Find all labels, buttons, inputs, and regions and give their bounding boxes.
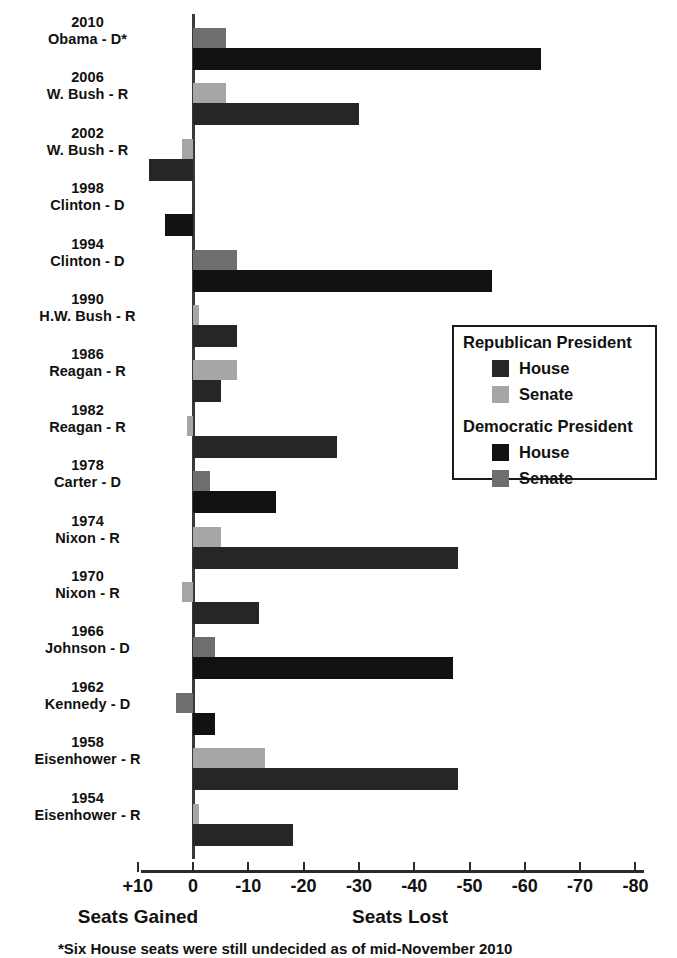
x-axis-label-right: Seats Lost [300,906,500,928]
row-president: Reagan - R [0,363,175,380]
x-tick-label--80: -80 [622,876,648,897]
x-tick-label--60: -60 [512,876,538,897]
row-label-1958: 1958Eisenhower - R [0,734,175,768]
x-tick-label--30: -30 [346,876,372,897]
bar-house-1982 [193,436,337,458]
row-year: 1966 [0,623,175,640]
x-tick--60 [524,862,526,872]
row-label-1978: 1978Carter - D [0,457,175,491]
legend-item-republican-senate: Senate [492,385,573,404]
bar-senate-2002 [182,139,193,159]
legend-item-republican-house: House [492,359,569,378]
bar-senate-1990 [193,305,199,325]
bar-house-2002 [149,159,193,181]
chart-footnote: *Six House seats were still undecided as… [58,940,512,957]
chart-root: 2010Obama - D*2006W. Bush - R2002W. Bush… [0,0,677,958]
x-tick-label--20: -20 [291,876,317,897]
row-president: Reagan - R [0,419,175,436]
row-label-1974: 1974Nixon - R [0,513,175,547]
row-label-1986: 1986Reagan - R [0,346,175,380]
row-label-1962: 1962Kennedy - D [0,679,175,713]
row-president: Clinton - D [0,197,175,214]
x-tick--30 [358,862,360,872]
row-label-1990: 1990H.W. Bush - R [0,291,175,325]
row-president: W. Bush - R [0,142,175,159]
row-president: Obama - D* [0,31,175,48]
bar-senate-2010 [193,28,226,48]
row-year: 1954 [0,790,175,807]
x-tick-label--40: -40 [401,876,427,897]
x-tick-label--70: -70 [567,876,593,897]
row-year: 2010 [0,14,175,31]
row-year: 2002 [0,125,175,142]
legend-item-democratic-senate: Senate [492,469,573,488]
row-president: Eisenhower - R [0,807,175,824]
x-tick-label--10: -10 [235,876,261,897]
row-label-1982: 1982Reagan - R [0,402,175,436]
bar-senate-1994 [193,250,237,270]
row-president: W. Bush - R [0,86,175,103]
bar-house-2010 [193,48,541,70]
bar-senate-1958 [193,748,265,768]
legend-label-republican-senate: Senate [519,385,573,404]
x-tick--20 [303,862,305,872]
legend-label-democratic-house: House [519,443,569,462]
row-president: Nixon - R [0,585,175,602]
legend-republican-title: Republican President [463,333,632,352]
bar-house-1998 [165,214,193,236]
row-year: 1986 [0,346,175,363]
row-year: 1990 [0,291,175,308]
bar-senate-1982 [187,416,193,436]
bar-senate-1954 [193,804,199,824]
legend-swatch-democratic-house [492,444,509,461]
bar-house-1978 [193,491,276,513]
row-year: 1974 [0,513,175,530]
x-tick--70 [579,862,581,872]
x-axis-line [141,870,644,873]
row-label-1970: 1970Nixon - R [0,568,175,602]
bar-house-1990 [193,325,237,347]
bar-senate-1966 [193,637,215,657]
x-tick-label-+10: +10 [122,876,153,897]
row-president: H.W. Bush - R [0,308,175,325]
x-tick-label-0: 0 [188,876,198,897]
row-label-2002: 2002W. Bush - R [0,125,175,159]
bar-house-1966 [193,657,453,679]
row-label-2010: 2010Obama - D* [0,14,175,48]
x-tick-+10 [137,862,139,872]
row-president: Kennedy - D [0,696,175,713]
row-year: 1958 [0,734,175,751]
x-tick--80 [634,862,636,872]
chart-legend: Republican President House Senate Democr… [452,325,657,480]
bar-senate-1970 [182,582,193,602]
x-tick--50 [469,862,471,872]
bar-house-1958 [193,768,458,790]
legend-democratic-title: Democratic President [463,417,633,436]
row-year: 1962 [0,679,175,696]
row-label-1998: 1998Clinton - D [0,180,175,214]
legend-label-democratic-senate: Senate [519,469,573,488]
bar-house-1962 [193,713,215,735]
x-tick--10 [247,862,249,872]
bar-senate-1974 [193,527,221,547]
row-label-2006: 2006W. Bush - R [0,69,175,103]
bar-house-1954 [193,824,293,846]
legend-item-democratic-house: House [492,443,569,462]
row-president: Carter - D [0,474,175,491]
row-label-1966: 1966Johnson - D [0,623,175,657]
row-president: Eisenhower - R [0,751,175,768]
row-president: Nixon - R [0,530,175,547]
bar-house-2006 [193,103,359,125]
row-president: Johnson - D [0,640,175,657]
x-axis: +100-10-20-30-40-50-60-70-80 Seats Gaine… [0,862,677,952]
x-tick--40 [413,862,415,872]
row-year: 1998 [0,180,175,197]
x-tick-0 [192,862,194,872]
row-year: 1978 [0,457,175,474]
bar-senate-2006 [193,83,226,103]
legend-swatch-republican-house [492,360,509,377]
bar-house-1986 [193,380,221,402]
x-axis-label-left: Seats Gained [38,906,238,928]
bar-senate-1962 [176,693,193,713]
bar-house-1970 [193,602,259,624]
